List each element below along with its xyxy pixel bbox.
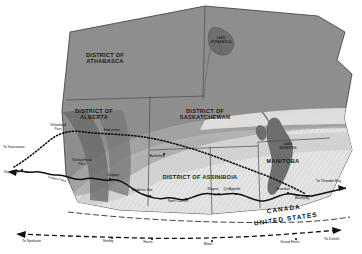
- gn-arrow-west: [16, 231, 26, 238]
- city-brandon: Brandon: [276, 187, 289, 191]
- gn-arrow-east: [332, 227, 342, 234]
- destination-spokane: To Spokane: [22, 239, 41, 243]
- destination-thunder-bay: To Thunder Bay: [316, 179, 342, 183]
- great-northern-line: [20, 230, 338, 238]
- city-medicine-hat: Medicine Hat: [132, 188, 152, 192]
- city-grand-forks: Grand Forks: [280, 240, 300, 244]
- city-swift-current: Swift Current: [168, 199, 188, 203]
- city-regina: Regina: [207, 187, 218, 191]
- city-quappelle-dot: [235, 193, 237, 195]
- city-medicine-hat-dot: [149, 195, 151, 197]
- cpr-arrow-east: [338, 185, 346, 191]
- city-calgary: Calgary: [107, 173, 119, 177]
- province-manitoba: MANITOBA: [267, 158, 300, 164]
- city-minot: Minot: [204, 242, 213, 246]
- map-canvas: DISTRICT OFATHABASCADISTRICT OFALBERTADI…: [0, 0, 362, 254]
- city-edmonton: Edmonton: [104, 128, 120, 132]
- district-alberta: DISTRICT OFALBERTA: [75, 108, 113, 120]
- city-kamloops: Kamloops: [4, 170, 20, 174]
- district-saskatchewan: DISTRICT OFSASKATCHEWAN: [180, 108, 230, 120]
- united-states-label: UNITED STATES: [253, 211, 317, 227]
- destination-duluth: To Duluth: [324, 237, 339, 241]
- district-assiniboia: DISTRICT OF ASSINIBOIA: [163, 174, 238, 180]
- destination-vancouver: To Vancouver: [3, 145, 26, 149]
- city-calgary-dot: [109, 178, 111, 180]
- district-athabasca: DISTRICT OFATHABASCA: [86, 52, 124, 64]
- province-labels-group: MANITOBA: [267, 158, 300, 164]
- historical-map: DISTRICT OFATHABASCADISTRICT OFALBERTADI…: [0, 0, 362, 254]
- city-havre: Havre: [143, 240, 152, 244]
- city-quappelle: Qu'Appelle: [223, 187, 240, 191]
- city-shelby: Shelby: [103, 239, 114, 243]
- city-brandon-dot: [287, 192, 289, 194]
- city-edmonton-dot: [108, 133, 110, 135]
- great-northern-railway-dashed: [16, 227, 342, 238]
- city-regina-dot: [218, 193, 220, 195]
- city-battleford: Battleford: [150, 154, 165, 158]
- city-kamloops-dot: [21, 169, 23, 171]
- city-winnipeg: Winnipeg: [295, 196, 310, 200]
